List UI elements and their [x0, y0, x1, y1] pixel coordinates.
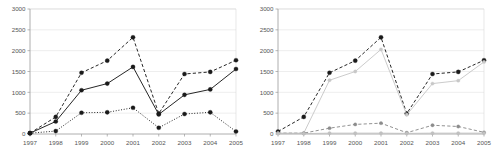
xtick-label-1999: 1999 [323, 139, 337, 146]
right-chart-series [276, 35, 486, 135]
marker-series-3-dotted-2002 [157, 126, 161, 130]
ytick-label-500: 500 [263, 109, 274, 116]
series-line-series-1-dashed [30, 37, 236, 133]
marker-series-3-dotted-2005 [234, 129, 238, 133]
series-line-series-3-dotted [30, 108, 236, 133]
marker-series-3-gray-dashed-2003 [431, 124, 434, 127]
marker-series-2-lightgray-solid-2004 [457, 79, 460, 82]
marker-series-3-dotted-1999 [79, 111, 83, 115]
marker-series-3-dotted-2003 [182, 112, 186, 116]
left-chart-yticks: 050010001500200025003000 [12, 5, 30, 137]
marker-series-2-lightgray-solid-2002 [405, 113, 408, 116]
marker-series-1-black-dashed-2000 [353, 59, 357, 63]
marker-series-4-lightgray-flat-2005 [482, 131, 485, 134]
marker-series-3-dotted-1997 [28, 131, 32, 135]
xtick-label-1997: 1997 [271, 139, 285, 146]
marker-series-3-dotted-1998 [54, 129, 58, 133]
marker-series-2-solid-1999 [79, 88, 83, 92]
ytick-label-1500: 1500 [12, 68, 26, 75]
xtick-label-2000: 2000 [100, 139, 114, 146]
marker-series-4-lightgray-flat-2002 [405, 132, 408, 135]
ytick-label-2500: 2500 [260, 26, 274, 33]
right-chart-svg: 050010001500200025003000 199719981999200… [248, 0, 496, 155]
marker-series-1-black-dashed-1998 [302, 115, 306, 119]
left-chart-xticks: 199719981999200020012002200320042005 [23, 134, 243, 146]
ytick-label-2000: 2000 [12, 47, 26, 54]
ytick-label-1000: 1000 [12, 89, 26, 96]
marker-series-3-gray-dashed-2001 [379, 121, 382, 124]
marker-series-1-black-dashed-2001 [379, 35, 383, 39]
marker-series-4-lightgray-flat-2004 [457, 131, 460, 134]
marker-series-3-gray-dashed-2000 [354, 123, 357, 126]
xtick-label-2001: 2001 [374, 139, 388, 146]
xtick-label-2003: 2003 [426, 139, 440, 146]
xtick-label-2005: 2005 [477, 139, 491, 146]
xtick-label-2005: 2005 [229, 139, 243, 146]
xtick-label-1998: 1998 [49, 139, 63, 146]
marker-series-1-dashed-2005 [234, 58, 238, 62]
xtick-label-1998: 1998 [297, 139, 311, 146]
marker-series-4-lightgray-flat-1998 [302, 132, 305, 135]
left-chart-svg: 050010001500200025003000 199719981999200… [0, 0, 248, 155]
series-line-series-1-black-dashed [278, 37, 484, 131]
ytick-label-3000: 3000 [12, 5, 26, 12]
right-chart-yticks: 050010001500200025003000 [260, 5, 278, 137]
marker-series-3-dotted-2004 [208, 110, 212, 114]
marker-series-2-solid-1998 [54, 119, 58, 123]
marker-series-2-solid-2004 [208, 87, 212, 91]
xtick-label-1999: 1999 [75, 139, 89, 146]
xtick-label-2000: 2000 [348, 139, 362, 146]
marker-series-4-lightgray-flat-2003 [431, 131, 434, 134]
marker-series-2-solid-2001 [131, 65, 135, 69]
marker-series-3-dotted-2001 [131, 106, 135, 110]
left-chart: 050010001500200025003000 199719981999200… [0, 0, 248, 155]
series-line-series-2-lightgray-solid [278, 49, 484, 133]
marker-series-1-black-dashed-1999 [327, 71, 331, 75]
marker-series-2-solid-2005 [234, 67, 238, 71]
ytick-label-500: 500 [15, 109, 26, 116]
ytick-label-0: 0 [270, 130, 274, 137]
marker-series-1-dashed-1998 [54, 115, 58, 119]
ytick-label-3000: 3000 [260, 5, 274, 12]
left-chart-series [28, 35, 238, 135]
right-chart-xticks: 199719981999200020012002200320042005 [271, 134, 491, 146]
marker-series-1-black-dashed-2003 [430, 72, 434, 76]
xtick-label-1997: 1997 [23, 139, 37, 146]
ytick-label-1000: 1000 [260, 89, 274, 96]
marker-series-4-lightgray-flat-1997 [276, 132, 279, 135]
xtick-label-2003: 2003 [178, 139, 192, 146]
right-chart: 050010001500200025003000 199719981999200… [248, 0, 496, 155]
marker-series-1-dashed-2001 [131, 35, 135, 39]
series-1-left [28, 35, 238, 135]
ytick-label-2000: 2000 [260, 47, 274, 54]
ytick-label-1500: 1500 [260, 68, 274, 75]
right-chart-grid [278, 9, 484, 113]
xtick-label-2002: 2002 [400, 139, 414, 146]
marker-series-2-lightgray-solid-2000 [354, 70, 357, 73]
marker-series-3-dotted-2000 [105, 110, 109, 114]
marker-series-3-gray-dashed-1999 [328, 126, 331, 129]
marker-series-3-gray-dashed-2004 [457, 125, 460, 128]
marker-series-1-black-dashed-2004 [456, 70, 460, 74]
xtick-label-2002: 2002 [152, 139, 166, 146]
marker-series-2-solid-2003 [182, 93, 186, 97]
marker-series-2-lightgray-solid-2005 [482, 60, 485, 63]
marker-series-2-lightgray-solid-2001 [379, 48, 382, 51]
marker-series-4-lightgray-flat-2000 [354, 131, 357, 134]
left-chart-grid [30, 9, 236, 113]
xtick-label-2004: 2004 [203, 139, 217, 146]
marker-series-4-lightgray-flat-2001 [379, 131, 382, 134]
series-2-left [28, 65, 238, 135]
marker-series-1-dashed-2003 [182, 72, 186, 76]
series-line-series-2-solid [30, 67, 236, 133]
marker-series-1-dashed-2004 [208, 70, 212, 74]
marker-series-1-dashed-1999 [79, 71, 83, 75]
xtick-label-2001: 2001 [126, 139, 140, 146]
marker-series-2-solid-2000 [105, 81, 109, 85]
marker-series-2-lightgray-solid-1999 [328, 79, 331, 82]
xtick-label-2004: 2004 [451, 139, 465, 146]
figure-container: 050010001500200025003000 199719981999200… [0, 0, 496, 155]
marker-series-1-dashed-2000 [105, 59, 109, 63]
ytick-label-0: 0 [22, 130, 26, 137]
marker-series-4-lightgray-flat-1999 [328, 131, 331, 134]
